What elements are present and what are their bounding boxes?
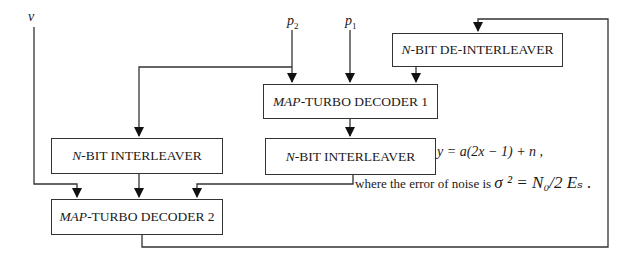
input-label-v: v [28, 9, 34, 25]
block-n-bit-interleaver-left: N-BIT INTERLEAVER [51, 138, 223, 174]
block-map-turbo-decoder-1: MAP-TURBO DECODER 1 [263, 84, 438, 119]
equation-channel-model: y = a(2x − 1) + n , [437, 144, 543, 160]
input-label-p1: p1 [345, 13, 357, 31]
wire-interleaver-right-to-decoder2 [197, 175, 353, 197]
equation-noise-variance: where the error of noise is σ ² = N₀/2 E… [355, 172, 591, 193]
block-n-bit-interleaver-right: N-BIT INTERLEAVER [265, 138, 436, 175]
input-label-p2: p2 [287, 13, 299, 31]
block-map-turbo-decoder-2: MAP-TURBO DECODER 2 [51, 199, 223, 235]
block-n-bit-deinterleaver: N-BIT DE-INTERLEAVER [392, 33, 563, 67]
